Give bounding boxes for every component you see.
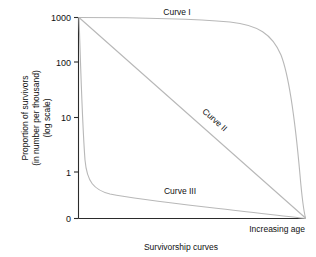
y-tick-label-100: 100 [56,58,71,68]
y-tick-label-1000: 1000 [51,13,71,23]
y-axis-title-line2: (in number per thousand) [31,70,41,166]
y-tick-label-0: 0 [66,214,71,224]
curve-3-label: Curve III [164,186,196,196]
figure-caption: Survivorship curves [144,242,218,252]
y-tick-label-1: 1 [66,168,71,178]
chart-canvas: 1000 100 10 1 0 Curve I Curve II Curve I… [0,0,316,257]
survivorship-curves-figure: 1000 100 10 1 0 Curve I Curve II Curve I… [0,0,316,257]
x-axis-title: Increasing age [249,224,305,234]
curve-1-label: Curve I [163,7,190,17]
y-axis-title-line1: Proportion of survivors [20,75,30,160]
y-tick-label-10: 10 [61,113,71,123]
y-axis-title-line3: (log scale) [42,98,52,137]
